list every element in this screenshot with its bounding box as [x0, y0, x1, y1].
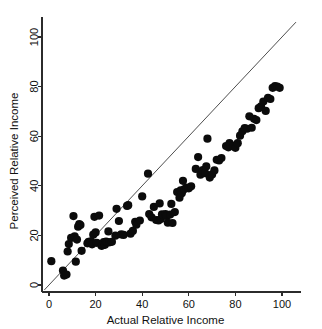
data-point	[194, 153, 202, 161]
x-tick-label: 20	[89, 298, 101, 310]
y-tick-label: 20	[28, 229, 40, 241]
data-point	[234, 139, 242, 147]
data-point	[262, 107, 270, 115]
data-point	[73, 236, 81, 244]
data-point	[76, 221, 84, 229]
data-point	[156, 199, 164, 207]
data-point	[248, 124, 256, 132]
y-tick-label: 100	[28, 28, 40, 46]
data-point	[138, 192, 146, 200]
data-point	[112, 205, 120, 213]
y-tick-label: 40	[28, 180, 40, 192]
data-point	[95, 211, 103, 219]
data-point	[124, 201, 132, 209]
y-tick-label: 80	[28, 80, 40, 92]
data-point	[47, 257, 55, 265]
data-point	[92, 228, 100, 236]
data-point	[217, 154, 225, 162]
data-point	[171, 208, 179, 216]
x-tick-label: 100	[273, 298, 291, 310]
data-point	[252, 116, 260, 124]
data-point	[72, 258, 80, 266]
data-point	[203, 135, 211, 143]
data-point	[115, 217, 123, 225]
data-point	[78, 247, 86, 255]
data-point-layer	[47, 82, 284, 280]
data-point	[119, 231, 127, 239]
data-point	[168, 219, 176, 227]
data-point	[144, 170, 152, 178]
y-axis-title: Perceived Relative Income	[8, 93, 20, 230]
x-tick-label: 60	[183, 298, 195, 310]
y-tick-label: 60	[28, 130, 40, 142]
data-point	[266, 95, 274, 103]
data-point	[104, 227, 112, 235]
data-point	[136, 216, 144, 224]
scatter-plot-figure: 020406080100020406080100Actual Relative …	[0, 0, 322, 329]
data-point	[62, 270, 70, 278]
data-point	[64, 247, 72, 255]
data-point	[167, 200, 175, 208]
x-tick-label: 0	[46, 298, 52, 310]
plot-canvas: 020406080100020406080100Actual Relative …	[0, 0, 322, 329]
x-axis-title: Actual Relative Income	[107, 314, 225, 326]
y-tick-label: 0	[28, 282, 40, 288]
data-point	[69, 212, 77, 220]
data-point	[210, 166, 218, 174]
data-point	[276, 84, 284, 92]
data-point	[187, 182, 195, 190]
data-point	[202, 162, 210, 170]
x-tick-label: 80	[229, 298, 241, 310]
x-tick-label: 40	[136, 298, 148, 310]
